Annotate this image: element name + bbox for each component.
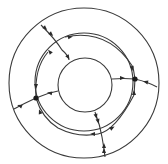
arrowhead-icon xyxy=(120,76,125,80)
middle-arc-top-to-right-node-path xyxy=(65,35,135,79)
left-node-lower-arc-path xyxy=(36,95,134,135)
right-node xyxy=(132,76,137,81)
annulus-flow-diagram xyxy=(0,0,168,164)
arrowhead-icon xyxy=(65,54,71,60)
arrowhead-icon xyxy=(102,143,106,148)
arrowhead-icon xyxy=(96,119,101,125)
arrowhead-icon xyxy=(42,25,48,31)
inner-ring xyxy=(58,58,112,112)
middle-ring xyxy=(35,33,133,131)
left-middle-arc-down-path xyxy=(36,52,48,98)
left-node xyxy=(33,95,38,100)
arrowhead-icon xyxy=(94,114,99,120)
arrowhead-icon xyxy=(102,148,106,153)
arrowhead-icon xyxy=(47,91,53,96)
left-node-to-inner-path xyxy=(36,91,58,98)
junction-nodes xyxy=(33,76,137,100)
arrowhead-icon xyxy=(34,84,38,89)
left-node-to-outer-path xyxy=(14,98,36,109)
